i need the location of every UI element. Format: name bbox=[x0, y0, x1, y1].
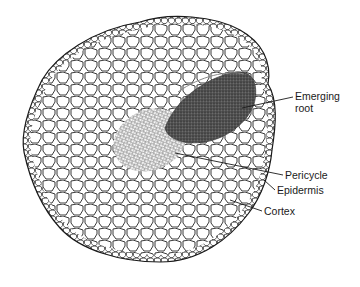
cortex-cells bbox=[0, 0, 360, 287]
label-emerging-root-line2: root bbox=[295, 102, 340, 114]
root-cross-section-figure: Emerging root Pericycle Epidermis Cortex bbox=[0, 0, 360, 287]
label-emerging-root-line1: Emerging bbox=[295, 90, 340, 102]
leader-epidermis bbox=[264, 180, 275, 190]
label-cortex: Cortex bbox=[264, 205, 295, 217]
label-pericycle: Pericycle bbox=[285, 169, 328, 181]
label-epidermis: Epidermis bbox=[277, 184, 324, 196]
label-emerging-root: Emerging root bbox=[295, 90, 340, 114]
cross-section-drawing bbox=[0, 0, 360, 287]
